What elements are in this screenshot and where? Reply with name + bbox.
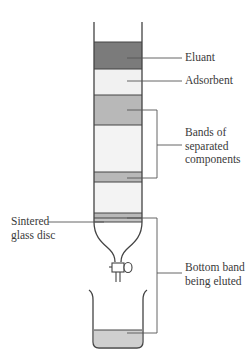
disc-label-line-1: Sintered [11, 215, 55, 229]
adsorbent-label: Adsorbent [185, 74, 233, 88]
sintered-glass-disc [94, 218, 142, 222]
bands-label-line-1: Bands of [185, 126, 241, 140]
bottom-bracket [127, 218, 157, 333]
bands-label-line-3: components [185, 153, 241, 167]
eluant-layer [94, 42, 142, 69]
bottom-band-label: Bottom band being eluted [185, 261, 245, 288]
disc-label-line-2: glass disc [11, 229, 55, 243]
eluant-label: Eluant [185, 51, 215, 65]
adsorbent-layer [94, 69, 142, 95]
stopcock [109, 263, 132, 283]
bands-label-line-2: separated [185, 140, 241, 154]
bands-label: Bands of separated components [185, 126, 241, 167]
adsorbent-layer-3 [94, 182, 142, 213]
adsorbent-layer-2 [94, 125, 142, 172]
bottom-band-label-line-1: Bottom band [185, 261, 245, 275]
disc-label: Sintered glass disc [11, 215, 55, 242]
component-band-2 [94, 172, 142, 182]
beaker [89, 290, 147, 348]
bottom-band [94, 213, 142, 218]
bottom-band-label-line-2: being eluted [185, 275, 245, 289]
